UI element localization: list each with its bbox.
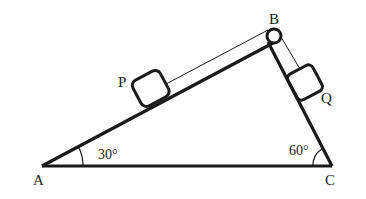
string-q xyxy=(281,37,300,69)
block-p xyxy=(130,68,171,108)
angle-label-a: 30° xyxy=(98,147,118,162)
label-p: P xyxy=(118,74,126,90)
label-a: A xyxy=(33,172,44,188)
string-p xyxy=(166,30,268,84)
incline-diagram: B P Q A C 30° 60° xyxy=(0,0,366,199)
label-b: B xyxy=(269,11,279,27)
label-c: C xyxy=(325,172,335,188)
pulley xyxy=(267,29,281,43)
side-ab xyxy=(42,43,273,166)
angle-arc-a xyxy=(78,146,83,166)
angle-label-c: 60° xyxy=(289,143,309,158)
block-q xyxy=(286,63,324,102)
label-q: Q xyxy=(321,90,332,106)
angle-arc-c xyxy=(313,149,322,166)
